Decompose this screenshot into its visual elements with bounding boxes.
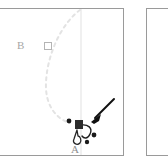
open-square-marker (44, 42, 52, 50)
right-panel (146, 8, 168, 156)
left-panel-content: B A (0, 9, 123, 155)
dark-dot-marker (85, 140, 89, 144)
figure-root: B A (0, 0, 168, 165)
dark-dot-marker (67, 119, 72, 124)
point-label-a: A (71, 144, 79, 155)
dashed-trajectory-arc (46, 10, 80, 123)
left-panel: B A (0, 8, 124, 156)
filled-square-marker (75, 120, 83, 129)
right-panel-content (147, 9, 168, 155)
left-panel-graphics (0, 9, 123, 155)
pointer-arrow (91, 99, 114, 124)
point-label-b: B (17, 40, 24, 51)
dark-dot-marker (92, 133, 97, 138)
